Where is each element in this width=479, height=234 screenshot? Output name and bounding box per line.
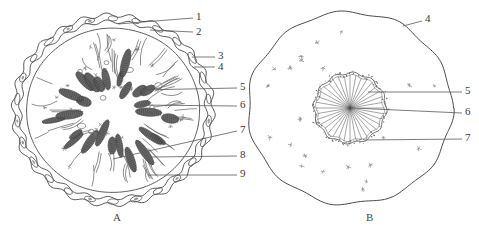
rosette-stipple (350, 141, 351, 142)
rosette-stipple (317, 93, 318, 94)
leader-b-6 (352, 108, 462, 113)
dark-body (118, 48, 133, 78)
rosette-stipple (384, 118, 385, 119)
dark-body (161, 113, 180, 125)
rosette-stipple (325, 81, 326, 82)
label-b-6: 6 (465, 106, 471, 117)
rosette-stipple (384, 117, 385, 118)
speck (112, 38, 116, 41)
rosette-stipple (346, 75, 347, 76)
rosette-stipple (328, 134, 329, 135)
inner-wisp (114, 51, 115, 74)
speck (83, 66, 87, 71)
label-5: 5 (240, 81, 246, 92)
rosette-stipple (329, 75, 330, 76)
rosette-stipple (332, 78, 333, 79)
rosette-stipple (376, 81, 378, 83)
dark-body (57, 86, 84, 103)
rosette-stipple (385, 103, 387, 105)
dark-body (55, 109, 83, 121)
rosette-stipple (328, 138, 330, 140)
panel-caption-a: A (113, 212, 121, 223)
rosette-stipple (373, 133, 374, 134)
dark-body (134, 99, 152, 109)
wall-cell (152, 24, 164, 33)
rosette-stipple (382, 116, 384, 118)
rosette-stipple (348, 141, 350, 143)
rosette-stipple (318, 92, 319, 93)
panel-caption-b: B (366, 212, 373, 223)
leader-8 (150, 156, 237, 157)
rosette-stipple (319, 97, 320, 98)
rosette-stipple (317, 113, 318, 114)
rosette-stipple (386, 97, 388, 99)
rosette-stipple (378, 88, 379, 89)
panel-a-inner-wisps (27, 33, 208, 192)
rosette-stipple (376, 86, 378, 88)
rosette-stipple (330, 136, 331, 137)
speck (299, 164, 305, 167)
rosette-stipple (373, 80, 374, 81)
inner-wisp (163, 54, 187, 77)
vacuole (89, 129, 94, 133)
label-8: 8 (240, 149, 246, 160)
wall-cell (205, 115, 211, 127)
speck (99, 123, 103, 127)
rosette-stipple (338, 141, 339, 142)
rosette-stipple (353, 140, 354, 141)
rosette-stipple (323, 132, 324, 133)
inner-wisp (151, 49, 168, 67)
rosette-stipple (353, 73, 354, 74)
speck (321, 66, 326, 71)
rosette-stipple (345, 74, 346, 75)
inner-wisp (90, 165, 94, 192)
rosette-stipple (330, 78, 331, 79)
rosette-stipple (331, 76, 333, 78)
rosette-stipple (332, 140, 333, 141)
label-2: 2 (196, 26, 202, 37)
rosette-stipple (339, 138, 340, 139)
inner-wisp (175, 109, 208, 111)
rosette-stipple (347, 145, 348, 146)
wall-cell (84, 18, 95, 25)
rosette-stipple (386, 106, 387, 107)
rosette-stipple (315, 116, 317, 118)
rosette-stipple (343, 142, 344, 143)
inner-wisp (109, 154, 112, 171)
rosette-stipple (340, 140, 341, 141)
rosette-stipple (368, 74, 369, 75)
rosette-stipple (316, 100, 317, 101)
label-4: 4 (218, 61, 224, 72)
wall-cell (206, 94, 211, 104)
rosette-stipple (352, 70, 353, 71)
speck (272, 67, 276, 70)
dark-body (133, 138, 156, 167)
rosette-stipple (377, 82, 379, 84)
rosette-stipple (343, 144, 344, 145)
label-6: 6 (240, 99, 246, 110)
speck (368, 163, 372, 168)
wall-cell (14, 115, 20, 128)
rosette-stipple (371, 132, 372, 133)
rosette-stipple (314, 101, 315, 102)
rosette-stipple (364, 78, 365, 79)
rosette-stipple (360, 139, 361, 140)
dark-body (123, 146, 139, 173)
vacuole (104, 61, 109, 65)
rosette-stipple (384, 113, 385, 114)
rosette-stipple (313, 108, 314, 109)
leader-b-4 (403, 21, 422, 26)
rosette-stipple (379, 126, 380, 127)
vacuole (100, 96, 106, 101)
rosette-stipple (347, 72, 348, 73)
dark-body (108, 137, 117, 154)
rosette-stipple (340, 76, 341, 77)
rosette-stipple (366, 137, 368, 139)
wall-cell (43, 173, 54, 184)
rosette-stipple (318, 124, 319, 125)
rosette-stipple (371, 136, 372, 137)
panel-a-outer-wall (11, 13, 215, 206)
panel-a-drawing (11, 13, 215, 206)
rosette-stipple (313, 111, 314, 112)
rosette-stipple (348, 143, 349, 144)
